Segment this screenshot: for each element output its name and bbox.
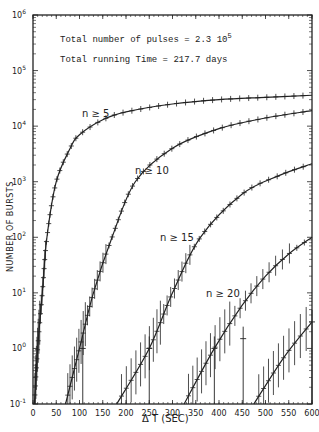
x-tick-label: 100 — [72, 409, 87, 418]
x-tick-label: 0 — [30, 409, 35, 418]
y-tick-label: 106 — [12, 8, 26, 20]
x-tick-label: 200 — [118, 409, 133, 418]
annotation-pulses-exponent: 5 — [227, 32, 231, 40]
plot-frame — [33, 15, 312, 404]
y-tick-label: 100 — [12, 341, 26, 353]
curve-label-n15: n ≥ 15 — [160, 232, 194, 243]
x-tick-label: 550 — [281, 409, 296, 418]
annotation-running-time: Total running Time = 217.7 days — [60, 55, 227, 65]
curve-series-0 — [34, 95, 312, 404]
x-tick-label: 500 — [258, 409, 273, 418]
y-tick-label: 105 — [12, 64, 26, 76]
curve-label-n10: n ≥ 10 — [135, 165, 169, 176]
annotation-pulses: Total number of pulses = 2.3 105 — [60, 32, 232, 45]
x-tick-label: 600 — [304, 409, 319, 418]
x-tick-label: 350 — [188, 409, 203, 418]
curve-label-n20: n ≥ 20 — [206, 288, 240, 299]
curve-series-4 — [254, 322, 312, 404]
curve-series-3 — [184, 237, 312, 404]
x-tick-label: 50 — [51, 409, 61, 418]
x-axis-label: Δ T (SEC) — [142, 413, 189, 424]
y-tick-label: 10-1 — [10, 397, 26, 409]
x-tick-label: 400 — [211, 409, 226, 418]
annotation-pulses-text: Total number of pulses = 2.3 10 — [60, 35, 227, 45]
y-tick-label: 101 — [12, 286, 26, 298]
curve-label-n5: n ≥ 5 — [82, 108, 109, 119]
y-tick-label: 104 — [12, 119, 26, 131]
y-axis-label: NUMBER OF BURSTS — [6, 181, 15, 272]
x-tick-label: 450 — [235, 409, 250, 418]
x-tick-label: 150 — [95, 409, 110, 418]
